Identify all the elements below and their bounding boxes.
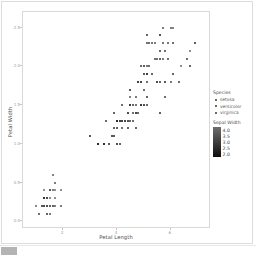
colorbar-tick-label: 3.5 (223, 133, 230, 138)
data-point (167, 42, 169, 44)
data-point (154, 42, 156, 44)
data-point (127, 120, 129, 122)
data-point (89, 135, 91, 137)
data-point (113, 127, 115, 129)
data-point (135, 104, 137, 106)
data-point (148, 42, 150, 44)
y-tick-label: 0.0 (8, 218, 20, 223)
data-point (143, 104, 145, 106)
data-point (146, 34, 148, 36)
sepal-width-colorbar (213, 127, 221, 157)
colorbar-tick-labels: 4.03.53.02.52.0 (223, 127, 245, 157)
y-tick-mark (20, 182, 22, 183)
data-point (129, 104, 131, 106)
data-point (127, 112, 129, 114)
x-tick-label: 4 (115, 230, 118, 235)
data-point (116, 127, 118, 129)
data-point (41, 205, 43, 207)
data-point (137, 81, 139, 83)
species-legend-title: Species (213, 90, 256, 95)
chart-plot-area: Petal Length Petal Width 2460.00.51.01.5… (2, 2, 252, 243)
data-point (119, 120, 121, 122)
data-point (52, 189, 54, 191)
y-tick-label: 2.0 (8, 63, 20, 68)
data-point (113, 135, 115, 137)
y-tick-mark (20, 143, 22, 144)
data-point (52, 205, 54, 207)
data-point (38, 213, 40, 215)
data-point (46, 213, 48, 215)
species-legend-label: versicolor (220, 104, 241, 109)
data-point (162, 58, 164, 60)
colorbar-tick-label: 3.0 (223, 139, 230, 144)
data-point (140, 81, 142, 83)
sepal-width-legend-title: Sepal Width (213, 120, 256, 125)
data-point (60, 189, 62, 191)
colorbar-tick-label: 2.5 (223, 145, 230, 150)
data-point (140, 104, 142, 106)
data-point (172, 27, 174, 29)
data-point (159, 50, 161, 52)
data-point (164, 96, 166, 98)
data-point (54, 189, 56, 191)
data-point (103, 143, 105, 145)
data-point (49, 197, 51, 199)
data-point (60, 205, 62, 207)
data-point (135, 127, 137, 129)
bottom-strip (0, 245, 256, 257)
data-point (159, 81, 161, 83)
species-legend-label: setosa (220, 97, 234, 102)
scatter-plot-panel[interactable] (22, 11, 210, 228)
data-point (189, 50, 191, 52)
data-point (186, 58, 188, 60)
data-point (35, 205, 37, 207)
data-point (180, 65, 182, 67)
plot-window: Petal Length Petal Width 2460.00.51.01.5… (0, 0, 256, 257)
data-point (49, 189, 51, 191)
data-point (162, 27, 164, 29)
data-point (97, 143, 99, 145)
data-point (189, 65, 191, 67)
data-point (167, 58, 169, 60)
data-point (111, 135, 113, 137)
data-point (146, 73, 148, 75)
species-marker-icon (213, 110, 220, 117)
data-point (146, 81, 148, 83)
y-tick-label: 1.0 (8, 140, 20, 145)
data-point (132, 112, 134, 114)
sepal-width-legend: Sepal Width 4.03.53.02.52.0 (213, 120, 256, 157)
data-point (143, 73, 145, 75)
y-tick-mark (20, 65, 22, 66)
y-tick-mark (20, 220, 22, 221)
x-tick-label: 6 (168, 230, 171, 235)
y-tick-mark (20, 104, 22, 105)
data-point (146, 96, 148, 98)
y-tick-label: 1.5 (8, 102, 20, 107)
colorbar-tick-label: 2.0 (223, 151, 230, 156)
data-point (46, 205, 48, 207)
data-point (124, 120, 126, 122)
data-point (105, 120, 107, 122)
species-legend-label: virginica (220, 110, 239, 115)
data-point (46, 197, 48, 199)
data-point (159, 112, 161, 114)
data-point (154, 58, 156, 60)
data-point (49, 205, 51, 207)
data-point (135, 112, 137, 114)
data-point (143, 89, 145, 91)
data-point (159, 34, 161, 36)
data-point (151, 73, 153, 75)
species-legend-item-virginica[interactable]: virginica (213, 110, 256, 117)
data-point (170, 81, 172, 83)
data-point (162, 42, 164, 44)
data-point (121, 127, 123, 129)
data-point (172, 73, 174, 75)
colorbar-wrap: 4.03.53.02.52.0 (213, 127, 256, 157)
y-tick-mark (20, 27, 22, 28)
legend-container: Species setosaversicolorvirginica Sepal … (213, 90, 256, 157)
data-point (146, 104, 148, 106)
data-point (132, 120, 134, 122)
data-point (108, 143, 110, 145)
taskbar-chip[interactable] (1, 247, 17, 255)
data-point (146, 65, 148, 67)
